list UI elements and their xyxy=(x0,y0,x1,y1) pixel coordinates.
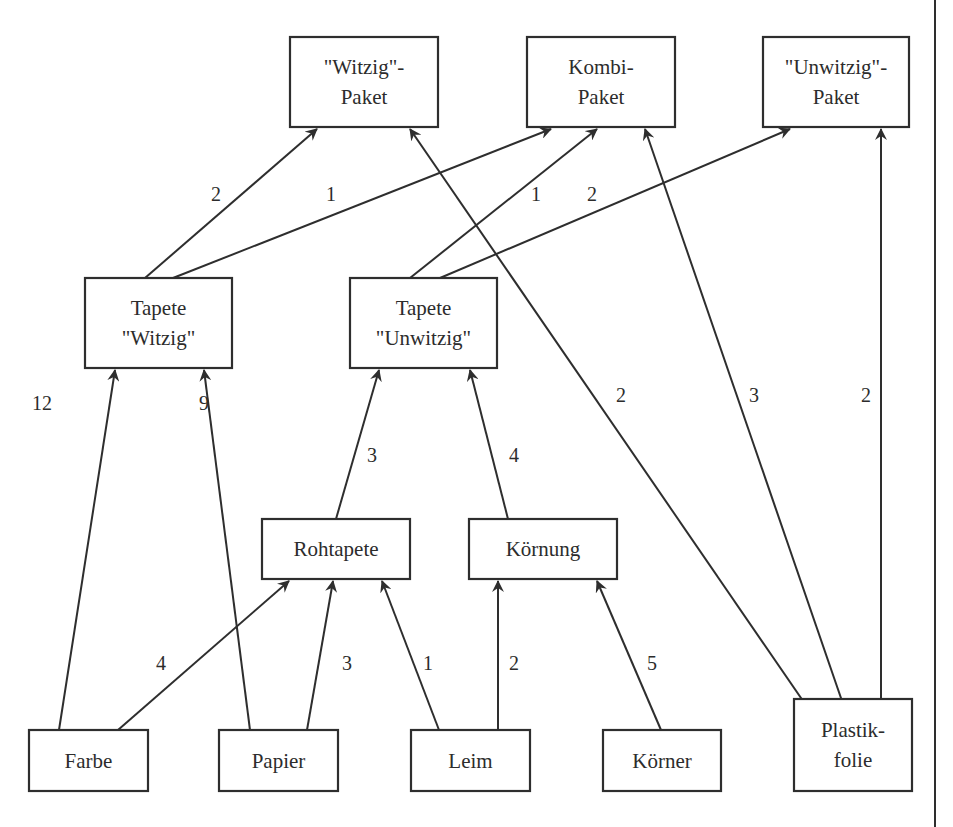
node-unwitzig-paket: "Unwitzig"-Paket xyxy=(763,37,909,127)
node-box xyxy=(794,699,912,791)
arrow-line xyxy=(307,581,333,730)
gozintograph-diagram: 21122321293443125 "Witzig"-PaketKombi-Pa… xyxy=(0,0,953,827)
node-plastikfolie: Plastik-folie xyxy=(794,699,912,791)
edge-tapete-unwitzig-to-kombi-paket: 1 xyxy=(410,129,597,278)
node-label: Rohtapete xyxy=(293,537,378,561)
edges-layer: 21122321293443125 xyxy=(32,129,881,730)
node-label: "Witzig" xyxy=(122,326,195,350)
node-box xyxy=(85,278,232,368)
node-label: Leim xyxy=(448,749,492,773)
edge-papier-to-tapete-witzig: 9 xyxy=(199,370,250,730)
edge-quantity-label: 4 xyxy=(156,652,166,674)
edge-quantity-label: 2 xyxy=(211,183,221,205)
node-koernung: Körnung xyxy=(469,519,617,579)
node-tapete-witzig: Tapete"Witzig" xyxy=(85,278,232,368)
node-label: Körner xyxy=(632,749,691,773)
edge-plastikfolie-to-kombi-paket: 3 xyxy=(645,129,852,730)
node-rohtapete: Rohtapete xyxy=(262,519,410,579)
edge-quantity-label: 1 xyxy=(423,652,433,674)
node-farbe: Farbe xyxy=(29,730,148,791)
node-box xyxy=(350,278,497,368)
node-label: "Unwitzig"- xyxy=(785,55,887,79)
arrow-line xyxy=(118,581,289,730)
arrow-line xyxy=(59,370,115,730)
edge-leim-to-rohtapete: 1 xyxy=(382,581,439,730)
edge-quantity-label: 1 xyxy=(326,183,336,205)
node-label: Paket xyxy=(341,85,388,109)
edge-quantity-label: 2 xyxy=(587,183,597,205)
edge-quantity-label: 2 xyxy=(616,384,626,406)
edge-leim-to-koernung: 2 xyxy=(498,581,519,730)
node-leim: Leim xyxy=(411,730,530,791)
node-label: Papier xyxy=(252,749,306,773)
arrow-line xyxy=(470,370,508,519)
node-label: Paket xyxy=(578,85,625,109)
node-kombi-paket: Kombi-Paket xyxy=(527,37,675,127)
edge-quantity-label: 3 xyxy=(749,384,759,406)
node-label: Paket xyxy=(813,85,860,109)
edge-quantity-label: 2 xyxy=(861,384,871,406)
arrow-line xyxy=(410,129,597,278)
edge-farbe-to-rohtapete: 4 xyxy=(118,581,289,730)
arrow-line xyxy=(204,370,250,730)
arrow-line xyxy=(410,129,823,730)
edge-quantity-label: 3 xyxy=(367,444,377,466)
edge-rohtapete-to-tapete-unwitzig: 3 xyxy=(336,370,379,519)
node-label: Tapete xyxy=(131,296,187,320)
node-koerner: Körner xyxy=(603,730,721,791)
edge-quantity-label: 2 xyxy=(509,652,519,674)
nodes-layer: "Witzig"-PaketKombi-Paket"Unwitzig"-Pake… xyxy=(29,37,912,791)
edge-koerner-to-koernung: 5 xyxy=(597,581,661,730)
node-label: Kombi- xyxy=(568,55,633,79)
node-label: Tapete xyxy=(396,296,452,320)
edge-farbe-to-tapete-witzig: 12 xyxy=(32,370,115,730)
node-papier: Papier xyxy=(219,730,338,791)
node-label: Farbe xyxy=(65,749,113,773)
edge-koernung-to-tapete-unwitzig: 4 xyxy=(470,370,519,519)
node-label: "Unwitzig" xyxy=(376,326,471,350)
edge-quantity-label: 4 xyxy=(509,444,519,466)
edge-quantity-label: 5 xyxy=(647,652,657,674)
node-witzig-paket: "Witzig"-Paket xyxy=(290,37,438,127)
edge-quantity-label: 1 xyxy=(531,183,541,205)
arrow-line xyxy=(645,129,852,730)
edge-papier-to-rohtapete: 3 xyxy=(307,581,352,730)
node-box xyxy=(763,37,909,127)
node-tapete-unwitzig: Tapete"Unwitzig" xyxy=(350,278,497,368)
node-label: "Witzig"- xyxy=(324,55,404,79)
edge-quantity-label: 12 xyxy=(32,392,52,414)
edge-plastikfolie-to-witzig-paket: 2 xyxy=(410,129,823,730)
node-label: folie xyxy=(834,748,872,772)
node-label: Körnung xyxy=(506,537,581,561)
edge-quantity-label: 9 xyxy=(199,392,209,414)
node-label: Plastik- xyxy=(821,718,885,742)
edge-plastikfolie-to-unwitzig-paket: 2 xyxy=(861,129,881,699)
edge-quantity-label: 3 xyxy=(342,652,352,674)
node-box xyxy=(527,37,675,127)
node-box xyxy=(290,37,438,127)
